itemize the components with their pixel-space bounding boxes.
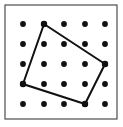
top-vertex (41, 21, 47, 27)
bottom-vertex (82, 101, 88, 107)
left-vertex (20, 81, 26, 87)
lattice-point (41, 81, 47, 87)
lattice-point (41, 101, 47, 107)
lattice-point (20, 101, 26, 107)
lattice-point (82, 61, 88, 67)
lattice-point (102, 41, 108, 47)
lattice-point (41, 61, 47, 67)
lattice-point (102, 21, 108, 27)
lattice-point (41, 41, 47, 47)
lattice-point (61, 41, 67, 47)
figure-container (0, 0, 123, 127)
lattice-point (20, 41, 26, 47)
lattice-quadrilateral-figure (0, 0, 123, 127)
lattice-point (102, 101, 108, 107)
right-vertex (102, 61, 108, 67)
lattice-point (61, 61, 67, 67)
lattice-point (102, 81, 108, 87)
lattice-point (61, 21, 67, 27)
lattice-point (82, 81, 88, 87)
lattice-point (82, 41, 88, 47)
lattice-point (61, 101, 67, 107)
lattice-point (20, 21, 26, 27)
lattice-point (61, 81, 67, 87)
lattice-point (20, 61, 26, 67)
lattice-point (82, 21, 88, 27)
